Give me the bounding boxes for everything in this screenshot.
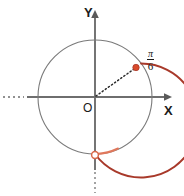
angle-numerator: π bbox=[147, 49, 154, 59]
angle-fraction: π 6 bbox=[147, 49, 154, 72]
angle-point-marker bbox=[133, 64, 139, 70]
terminal-side-radius bbox=[96, 69, 134, 96]
swept-arc bbox=[95, 64, 184, 178]
y-axis-label: Y bbox=[84, 6, 93, 19]
unit-circle-figure: X Y O π 6 bbox=[0, 0, 184, 196]
diagram-canvas bbox=[0, 0, 184, 196]
origin-label: O bbox=[83, 102, 92, 114]
terminal-point-marker bbox=[92, 152, 99, 159]
angle-denominator: 6 bbox=[147, 60, 154, 72]
x-axis-label: X bbox=[164, 104, 173, 117]
x-axis-arrow-icon bbox=[164, 93, 172, 101]
angle-annotation: π 6 bbox=[147, 49, 154, 73]
swept-arc-tail bbox=[97, 149, 119, 155]
